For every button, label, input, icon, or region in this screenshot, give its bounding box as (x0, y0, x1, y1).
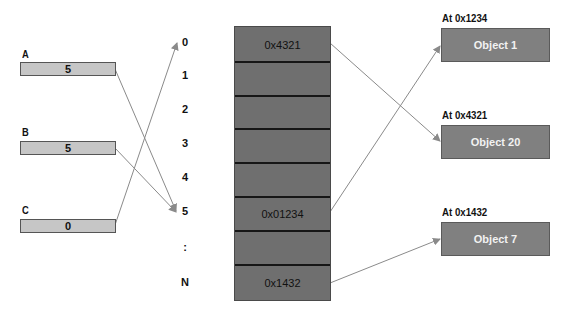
object-1-address-label: At 0x1234 (442, 12, 487, 24)
index-label-ellipsis: : (178, 241, 192, 253)
memory-cell-4 (235, 163, 330, 197)
memory-cell-3 (235, 129, 330, 163)
variable-a-box: 5 (20, 62, 116, 76)
variable-a-label: A (22, 48, 29, 60)
memory-cell-6 (235, 231, 330, 265)
variable-c-label: C (22, 204, 29, 216)
object-1-box: Object 1 (441, 28, 550, 62)
index-label-4: 4 (178, 171, 192, 183)
memory-cell-1 (235, 62, 330, 96)
arrow-cell-0x01234-to-object-1 (330, 46, 440, 212)
arrow-a-to-index-5 (115, 69, 176, 211)
memory-block: 0x4321 0x01234 0x1432 (234, 26, 331, 301)
index-label-1: 1 (178, 69, 192, 81)
object-20-box: Object 20 (441, 125, 550, 159)
object-7-box: Object 7 (441, 222, 550, 256)
index-label-0: 0 (178, 36, 192, 48)
arrow-b-to-index-5 (115, 148, 176, 212)
index-label-5: 5 (178, 205, 192, 217)
variable-b-box: 5 (20, 141, 116, 155)
index-label-2: 2 (178, 103, 192, 115)
variable-b-label: B (22, 126, 29, 138)
arrow-cell-0x1432-to-object-7 (330, 239, 440, 283)
object-20-address-label: At 0x4321 (442, 109, 487, 121)
variable-c-box: 0 (20, 219, 116, 233)
memory-cell-2 (235, 96, 330, 129)
index-label-3: 3 (178, 137, 192, 149)
arrow-c-to-index-0 (115, 43, 177, 225)
memory-cell-n: 0x1432 (235, 265, 330, 301)
memory-cell-5: 0x01234 (235, 197, 330, 231)
index-label-n: N (178, 276, 192, 288)
arrow-cell-0x4321-to-object-20 (330, 43, 440, 141)
memory-cell-0: 0x4321 (235, 27, 330, 62)
object-7-address-label: At 0x1432 (442, 206, 487, 218)
